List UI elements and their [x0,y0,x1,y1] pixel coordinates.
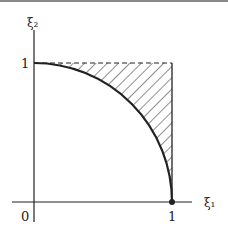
origin-label: 0 [21,209,29,224]
x-tick-one: 1 [168,209,176,224]
x-axis-label: ξ₁ [204,196,215,210]
y-tick-one: 1 [21,56,29,71]
point-one-zero [169,199,175,205]
hatched-region [34,63,172,202]
diagram-canvas: ξ₂ ξ₁ 1 1 0 [0,0,228,237]
y-axis-label: ξ₂ [27,16,39,30]
